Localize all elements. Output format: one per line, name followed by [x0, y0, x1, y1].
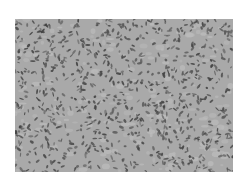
cell-texture	[15, 19, 233, 172]
histology-micrograph	[15, 19, 233, 172]
